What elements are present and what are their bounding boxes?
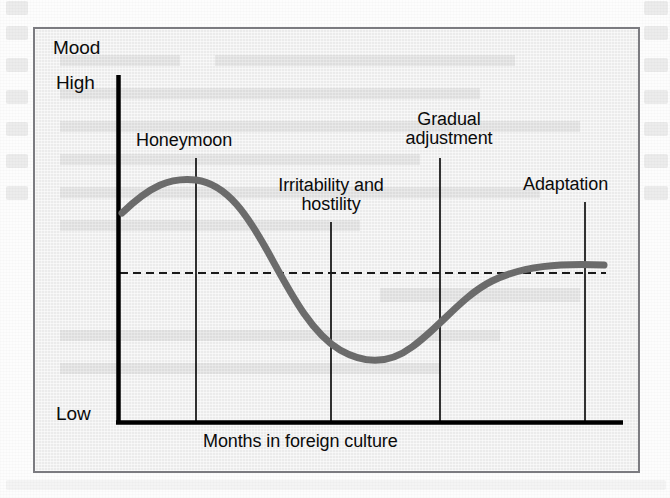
annotation-irritability-and-hostility: Irritability and hostility <box>261 176 401 215</box>
annotation-irritability-line2: hostility <box>261 195 401 214</box>
annotation-adaptation: Adaptation <box>523 175 608 194</box>
x-axis-title: Months in foreign culture <box>203 432 398 451</box>
culture-shock-curve-chart <box>0 0 670 498</box>
y-axis-tick-high: High <box>56 73 95 94</box>
annotation-irritability-line1: Irritability and <box>261 176 401 195</box>
annotation-gradual-line1: Gradual <box>381 110 517 129</box>
y-axis-tick-low: Low <box>56 404 91 425</box>
annotation-honeymoon: Honeymoon <box>136 131 232 150</box>
annotation-gradual-line2: adjustment <box>381 129 517 148</box>
y-axis-title: Mood <box>53 38 100 59</box>
annotation-gradual-adjustment: Gradual adjustment <box>381 110 517 149</box>
